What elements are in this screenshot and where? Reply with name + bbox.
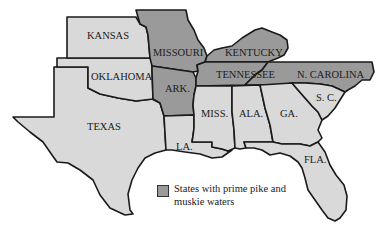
label-arkansas: ARK. xyxy=(165,83,190,94)
label-alabama: ALA. xyxy=(239,108,263,119)
legend-line-1: States with prime pike and xyxy=(174,182,286,195)
label-missouri: MISSOURI xyxy=(153,47,204,58)
label-mississippi: MISS. xyxy=(201,108,228,119)
label-texas: TEXAS xyxy=(87,121,121,132)
legend-swatch-prime-waters xyxy=(157,185,169,197)
label-kentucky: KENTUCKY xyxy=(225,47,283,58)
label-tennessee: TENNESSEE xyxy=(216,69,275,80)
label-louisiana: LA. xyxy=(176,141,193,152)
label-kansas: KANSAS xyxy=(87,30,129,41)
label-oklahoma: OKLAHOMA xyxy=(91,71,153,82)
label-north-carolina: N. CAROLINA xyxy=(297,69,364,80)
label-florida: FLA. xyxy=(304,154,326,165)
legend-line-2: muskie waters xyxy=(174,195,286,208)
label-south-carolina: S. C. xyxy=(316,92,337,103)
label-georgia: GA. xyxy=(280,108,298,119)
legend-text: States with prime pike and muskie waters xyxy=(174,182,286,208)
